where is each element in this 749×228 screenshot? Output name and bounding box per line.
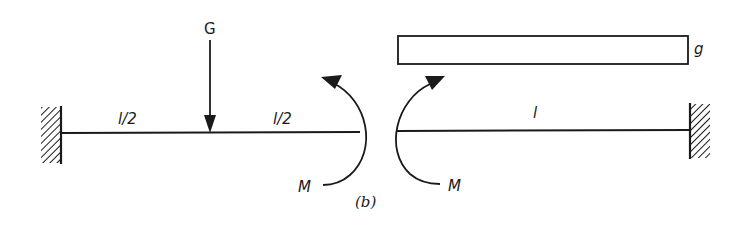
right-beam-length-label: l: [533, 106, 537, 121]
figure-caption: (b): [355, 195, 376, 210]
segment-label-right: l/2: [273, 112, 292, 127]
segment-label-left: l/2: [118, 112, 137, 127]
distributed-load-label: g: [694, 42, 704, 57]
distributed-load-block: [398, 36, 688, 64]
right-wall-hatch-icon: [690, 104, 710, 158]
right-beam: [397, 130, 690, 131]
point-load-arrow-icon: [204, 40, 216, 133]
left-moment-arrow-icon: [321, 75, 366, 185]
right-fixed-support: [690, 103, 710, 159]
left-moment-label: M: [298, 180, 311, 195]
left-beam: [61, 132, 360, 133]
beam-diagram: G l/2 l/2 M M l g (b): [0, 0, 749, 228]
right-moment-label: M: [448, 179, 461, 194]
left-fixed-support: [41, 106, 61, 164]
left-wall-hatch-icon: [41, 107, 61, 163]
point-load-label: G: [204, 22, 216, 37]
